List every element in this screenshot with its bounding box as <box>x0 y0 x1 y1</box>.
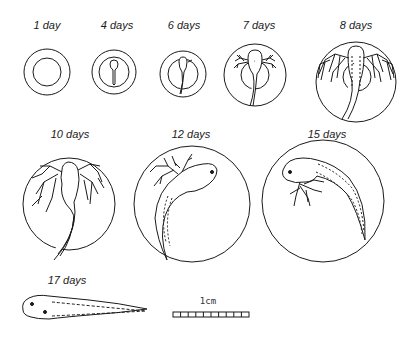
egg-4-days <box>92 50 136 94</box>
tadpole-17-days <box>23 295 147 319</box>
egg-15-days <box>262 140 384 262</box>
egg-10-days <box>23 158 115 260</box>
egg-12-days <box>134 146 250 262</box>
egg-7-days <box>224 44 286 106</box>
egg-8-days <box>316 42 396 122</box>
embryo-development-drawing <box>0 0 405 339</box>
scale-bar <box>173 312 249 317</box>
egg-6-days <box>160 51 206 97</box>
egg-1-day <box>24 49 70 95</box>
